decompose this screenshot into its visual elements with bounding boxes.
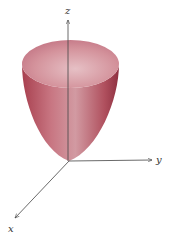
y-axis	[69, 160, 152, 161]
z-axis-label: z	[64, 5, 71, 16]
paraboloid-diagram: z y x	[0, 0, 173, 242]
x-axis	[15, 161, 69, 218]
x-axis-label: x	[8, 223, 14, 234]
y-axis-label: y	[155, 154, 162, 165]
paraboloid-top	[22, 40, 119, 88]
